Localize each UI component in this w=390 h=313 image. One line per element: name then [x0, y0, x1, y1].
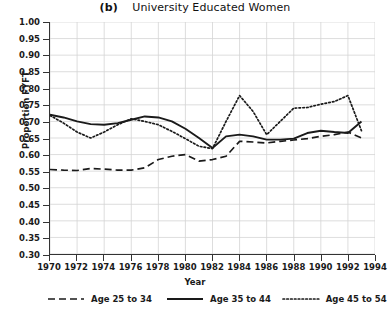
- panel-label: (b): [100, 1, 118, 14]
- x-axis-tick: [49, 255, 50, 261]
- legend-item-1[interactable]: Age 25 to 34: [47, 292, 152, 306]
- y-axis-tick-label: 0.45: [0, 201, 40, 210]
- y-axis-tick-label: 0.30: [0, 251, 40, 260]
- y-axis-tick: [43, 139, 49, 140]
- y-axis-tick: [43, 122, 49, 123]
- x-axis-tick: [212, 255, 213, 261]
- y-axis-tick: [43, 155, 49, 156]
- x-axis-label: Year: [0, 277, 390, 287]
- y-axis-tick-label: 0.85: [0, 68, 40, 77]
- y-axis-tick-label: 0.55: [0, 168, 40, 177]
- y-axis-tick: [43, 105, 49, 106]
- chart-title: (b) University Educated Women: [0, 1, 390, 14]
- x-axis-tick: [375, 255, 376, 261]
- legend-line-swatch: [282, 294, 320, 304]
- x-axis-tick: [266, 255, 267, 261]
- y-axis-tick-label: 0.70: [0, 118, 40, 127]
- plot-area: [49, 22, 375, 255]
- y-axis-tick: [43, 55, 49, 56]
- series-line-3: [50, 96, 361, 149]
- series-line-1: [50, 132, 361, 170]
- y-axis-tick-label: 0.95: [0, 35, 40, 44]
- chart-legend: Age 25 to 34Age 35 to 44Age 45 to 54: [0, 292, 390, 310]
- y-axis-tick: [43, 172, 49, 173]
- y-axis-tick: [43, 89, 49, 90]
- x-axis-tick: [348, 255, 349, 261]
- chart-container: (b) University Educated Women Proportion…: [0, 0, 390, 313]
- x-axis-tick: [76, 255, 77, 261]
- y-axis-tick-label: 0.40: [0, 218, 40, 227]
- legend-line-swatch: [166, 294, 204, 304]
- y-axis-tick-label: 0.80: [0, 85, 40, 94]
- x-axis-tick: [131, 255, 132, 261]
- legend-label: Age 35 to 44: [210, 294, 271, 304]
- y-axis-tick: [43, 205, 49, 206]
- y-axis-tick: [43, 188, 49, 189]
- y-axis-tick-label: 0.50: [0, 184, 40, 193]
- legend-label: Age 25 to 34: [91, 294, 152, 304]
- x-axis-tick: [321, 255, 322, 261]
- x-axis-tick-label: 1994: [355, 263, 390, 272]
- y-axis-tick-label: 1.00: [0, 18, 40, 27]
- y-axis-tick-label: 0.60: [0, 151, 40, 160]
- legend-item-3[interactable]: Age 45 to 54: [282, 292, 387, 306]
- y-axis-tick: [43, 72, 49, 73]
- legend-item-2[interactable]: Age 35 to 44: [166, 292, 271, 306]
- y-axis-tick-label: 0.35: [0, 234, 40, 243]
- x-axis-tick: [103, 255, 104, 261]
- x-axis-tick: [239, 255, 240, 261]
- y-axis-tick: [43, 238, 49, 239]
- y-axis-tick: [43, 39, 49, 40]
- chart-title-text: University Educated Women: [132, 1, 290, 14]
- series-layer: [50, 22, 375, 254]
- x-axis-tick: [158, 255, 159, 261]
- y-axis-tick-label: 0.65: [0, 135, 40, 144]
- legend-line-swatch: [47, 294, 85, 304]
- legend-label: Age 45 to 54: [326, 294, 387, 304]
- x-axis-tick: [185, 255, 186, 261]
- x-axis-tick: [294, 255, 295, 261]
- y-axis-tick: [43, 22, 49, 23]
- y-axis-tick-label: 0.75: [0, 101, 40, 110]
- y-axis-tick: [43, 222, 49, 223]
- y-axis-tick-label: 0.90: [0, 51, 40, 60]
- series-line-2: [50, 115, 361, 148]
